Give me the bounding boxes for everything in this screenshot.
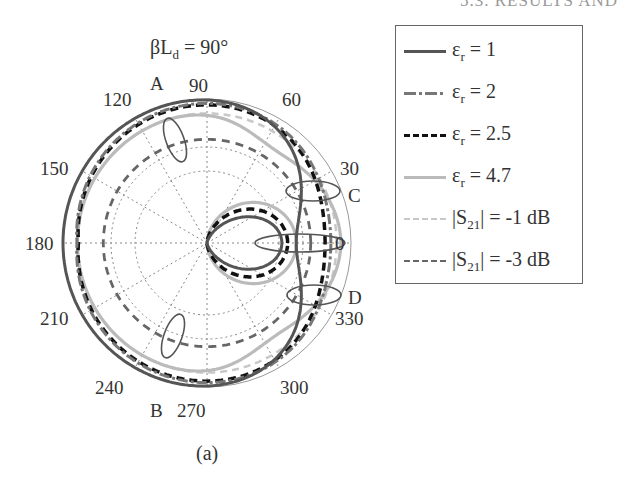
tick-label-270: 270 [177, 400, 206, 421]
legend-swatch [404, 260, 446, 262]
tick-label-210: 210 [40, 308, 69, 329]
legend-swatch [404, 134, 446, 137]
tick-label-300: 300 [280, 377, 309, 398]
legend-item-er2: εr = 2 [396, 78, 496, 108]
tick-label-90: 90 [189, 75, 208, 96]
legend-swatch [404, 176, 446, 179]
tick-label-240: 240 [95, 377, 124, 398]
tick-label-150: 150 [40, 158, 69, 179]
annotation-ovals [157, 115, 345, 360]
tick-label-0: 0 [335, 233, 345, 254]
tick-label-30: 30 [340, 158, 359, 179]
angular-tick-labels: 0306090120150180210240270300330 [25, 75, 364, 421]
tick-label-120: 120 [103, 89, 132, 110]
annotation-label-C: C [348, 185, 361, 206]
legend-swatch [404, 218, 446, 220]
tick-label-330: 330 [335, 308, 364, 329]
annotation-oval [287, 285, 341, 305]
figure-caption: (a) [196, 442, 218, 465]
legend: εr = 1 εr = 2 εr = 2.5 εr = 4.7 |S21| = … [395, 25, 583, 284]
tick-label-60: 60 [282, 89, 301, 110]
legend-swatch [404, 92, 446, 95]
legend-item-s21-3db: |S21| = -3 dB [396, 246, 550, 276]
tick-label-180: 180 [25, 233, 54, 254]
legend-item-s21-1db: |S21| = -1 dB [396, 204, 550, 234]
legend-swatch [404, 50, 446, 53]
annotation-oval [286, 181, 340, 201]
annotation-label-D: D [348, 287, 362, 308]
annotation-label-B: B [150, 400, 163, 421]
legend-item-er47: εr = 4.7 [396, 162, 511, 192]
annotation-label-A: A [150, 73, 164, 94]
legend-item-er1: εr = 1 [396, 36, 496, 66]
legend-item-er25: εr = 2.5 [396, 120, 511, 150]
